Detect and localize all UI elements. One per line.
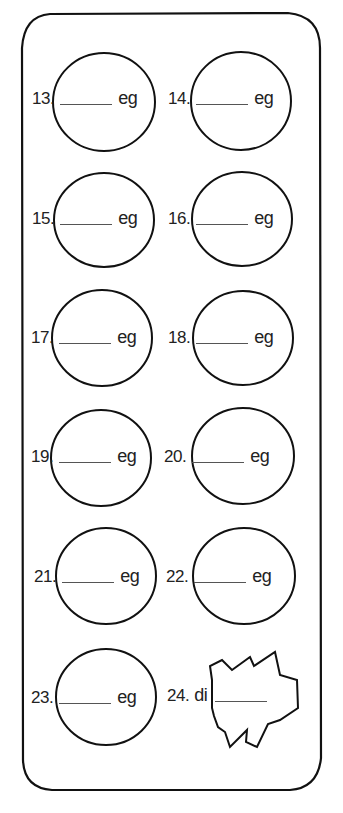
item-20: 20. eg: [164, 447, 269, 467]
item-number: 17.: [31, 328, 53, 348]
item-24: 24. di: [167, 686, 273, 706]
answer-blank[interactable]: [60, 224, 112, 225]
item-number: 21.: [34, 567, 56, 587]
item-number: 14.: [168, 89, 190, 109]
item-number: 15.: [32, 209, 54, 229]
item-number: 20.: [164, 447, 186, 467]
item-21: 21. eg: [34, 567, 139, 587]
item-suffix: eg: [118, 208, 137, 229]
item-16: 16. eg: [168, 209, 273, 229]
answer-blank[interactable]: [196, 343, 248, 344]
item-suffix: eg: [120, 566, 139, 587]
item-number: 19.: [31, 447, 53, 467]
item-suffix: eg: [254, 88, 273, 109]
item-prefix: di: [194, 685, 207, 706]
item-number: 22.: [166, 567, 188, 587]
item-13: 13. eg: [32, 89, 137, 109]
item-18: 18. eg: [168, 328, 273, 348]
item-number: 18.: [168, 328, 190, 348]
answer-blank[interactable]: [62, 582, 114, 583]
item-number: 24.: [167, 686, 189, 706]
answer-blank[interactable]: [192, 462, 244, 463]
item-17: 17. eg: [31, 328, 136, 348]
item-suffix: eg: [250, 446, 269, 467]
answer-blank[interactable]: [59, 462, 111, 463]
answer-blank[interactable]: [59, 703, 111, 704]
item-suffix: eg: [118, 88, 137, 109]
outer-frame: [22, 13, 321, 790]
item-23: 23. eg: [31, 688, 136, 708]
answer-blank[interactable]: [194, 582, 246, 583]
answer-blank[interactable]: [196, 104, 248, 105]
item-suffix: eg: [117, 687, 136, 708]
answer-blank[interactable]: [59, 343, 111, 344]
item-suffix: eg: [252, 566, 271, 587]
item-number: 13.: [32, 89, 54, 109]
item-suffix: eg: [117, 327, 136, 348]
item-number: 23.: [31, 688, 53, 708]
item-suffix: eg: [254, 208, 273, 229]
item-14: 14. eg: [168, 89, 273, 109]
item-suffix: eg: [117, 446, 136, 467]
item-number: 16.: [168, 209, 190, 229]
answer-blank[interactable]: [60, 104, 112, 105]
item-19: 19. eg: [31, 447, 136, 467]
item-15: 15. eg: [32, 209, 137, 229]
answer-blank[interactable]: [215, 701, 267, 702]
item-suffix: eg: [254, 327, 273, 348]
item-22: 22. eg: [166, 567, 271, 587]
answer-blank[interactable]: [196, 224, 248, 225]
